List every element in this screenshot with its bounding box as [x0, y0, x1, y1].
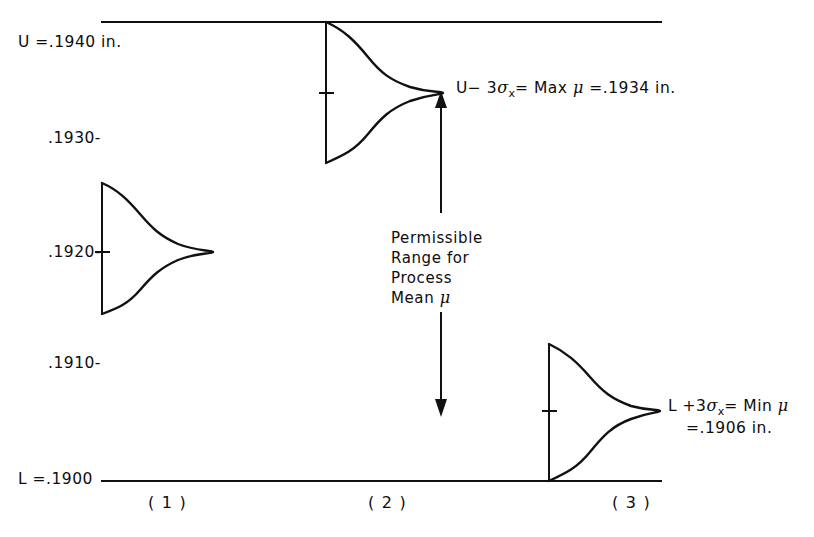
statistical-diagram: U =.1940 in. L =.1900 .1930- .1920- .191… [0, 0, 814, 537]
upper-bound-prefix: U− 3 [456, 79, 497, 97]
upper-bound-mu: μ [573, 78, 584, 97]
scale-tick-label-1910: .1910- [48, 354, 101, 372]
lower-bound-prefix: L +3 [668, 397, 706, 415]
group-label-1: ( 1 ) [148, 493, 187, 512]
permissible-range-mean-word: Mean [391, 289, 440, 307]
upper-bound-value: =.1934 in. [584, 79, 676, 97]
lower-bound-annotation-line1: L +3σx= Min μ [668, 396, 789, 418]
upper-bound-suffix: = Max [515, 79, 573, 97]
distribution-1-curve [102, 183, 213, 314]
lower-bound-sigma: σ [706, 396, 717, 415]
permissible-range-line-2: Range for [391, 248, 483, 268]
lower-bound-suffix: = Min [724, 397, 777, 415]
upper-spec-limit-label: U =.1940 in. [18, 33, 122, 51]
group-label-3: ( 3 ) [612, 493, 651, 512]
group-label-2: ( 2 ) [368, 493, 407, 512]
distribution-3-curve [549, 344, 660, 481]
lower-bound-annotation-line2: =.1906 in. [686, 419, 772, 437]
permissible-range-line-1: Permissible [391, 228, 483, 248]
distribution-2-curve [326, 22, 443, 163]
upper-bound-annotation: U− 3σx= Max μ =.1934 in. [456, 78, 676, 100]
lower-bound-mu: μ [778, 396, 789, 415]
permissible-range-line-4: Mean μ [391, 288, 483, 308]
range-arrow-head-down [435, 399, 447, 417]
permissible-range-mu: μ [440, 288, 451, 307]
permissible-range-text-block: Permissible Range for Process Mean μ [391, 228, 483, 308]
scale-tick-label-1920: .1920- [48, 243, 101, 261]
scale-tick-label-1930: .1930- [48, 129, 101, 147]
lower-spec-limit-label: L =.1900 [18, 470, 93, 488]
upper-bound-sigma: σ [497, 78, 508, 97]
permissible-range-line-3: Process [391, 268, 483, 288]
